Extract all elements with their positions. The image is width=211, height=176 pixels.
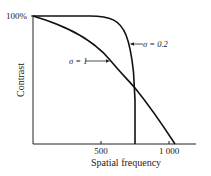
label-sigma-0.2: σ = 0.2 (143, 39, 169, 49)
mtf-chart: 100% 500 1 000 Spatial frequency Contras… (0, 0, 211, 176)
arrowhead-sigma-0.2-icon (130, 42, 134, 45)
x-tick-label-500: 500 (94, 146, 108, 156)
y-axis-title: Contrast (15, 63, 26, 97)
curve-sigma-0.2 (33, 16, 135, 144)
y-tick-label-100: 100% (6, 11, 28, 21)
x-axis-title: Spatial frequency (91, 157, 161, 168)
curve-sigma-1 (33, 16, 175, 144)
label-sigma-1: σ = 1 (69, 56, 87, 66)
x-tick-label-1000: 1 000 (159, 146, 180, 156)
